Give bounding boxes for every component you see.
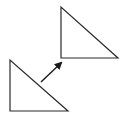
original-triangle <box>10 60 68 111</box>
translated-triangle <box>61 7 118 58</box>
translation-arrow-icon <box>41 63 61 82</box>
translation-diagram <box>0 0 123 122</box>
